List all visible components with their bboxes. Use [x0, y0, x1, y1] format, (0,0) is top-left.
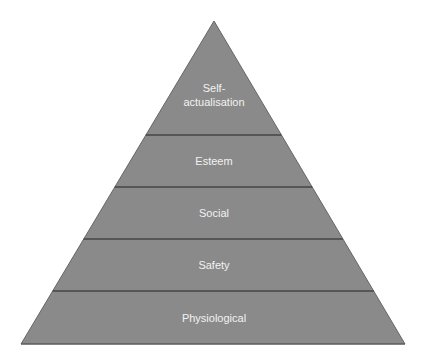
- level-esteem: Esteem: [195, 155, 232, 167]
- pyramid-diagram: Self- actualisation Esteem Social Safety…: [0, 0, 429, 362]
- level-physiological: Physiological: [182, 312, 246, 324]
- level-self-actualisation-line1: Self-: [203, 82, 226, 94]
- level-safety: Safety: [198, 259, 230, 271]
- pyramid-shape: [21, 21, 405, 344]
- level-social: Social: [199, 207, 229, 219]
- level-self-actualisation-line2: actualisation: [183, 96, 244, 108]
